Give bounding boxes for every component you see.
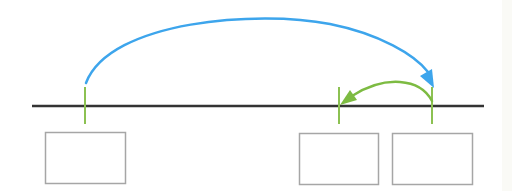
box-1 [46, 133, 126, 184]
green-move-arrow [340, 82, 432, 105]
green-arrowhead-icon [340, 90, 357, 105]
diagram-canvas [0, 0, 512, 191]
box-3 [393, 134, 473, 185]
blue-move-arrow [86, 18, 434, 88]
box-2 [300, 134, 379, 185]
